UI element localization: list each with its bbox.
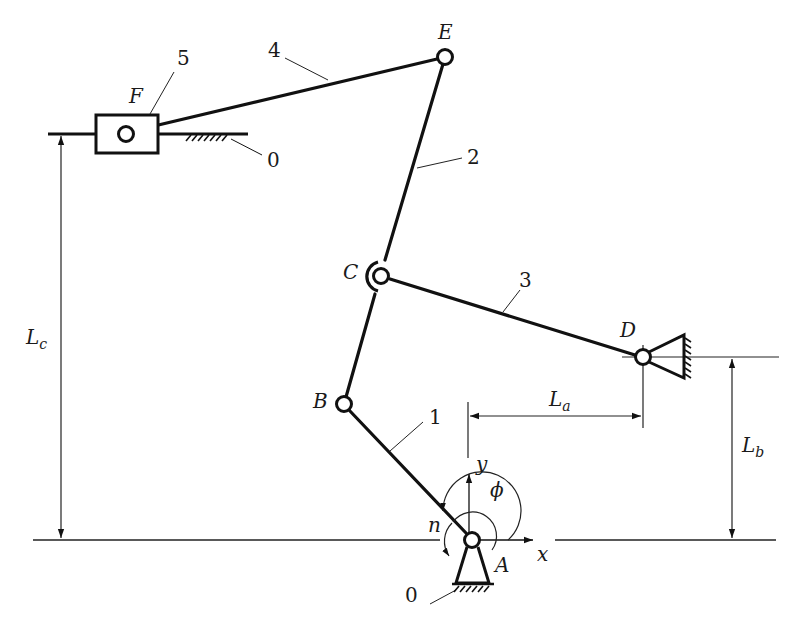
joint-D [636,350,651,365]
leader-0-top [231,139,262,155]
label-Lc: Lc [26,327,47,347]
joint-E [438,50,453,65]
ground-hatch-icon [186,135,227,141]
label-E: E [438,22,453,42]
ground-support-A [452,547,494,592]
label-x-axis: x [537,544,548,564]
label-C: C [343,262,358,282]
joint-F [119,127,134,142]
mechanism-diagram [0,0,807,633]
link-3 [390,279,635,355]
label-n: n [428,515,441,535]
label-link-2: 2 [467,147,480,167]
La-main: L [549,387,562,411]
pins [119,50,651,548]
label-A: A [495,555,509,575]
label-B: B [313,391,328,411]
label-link-4: 4 [268,40,281,60]
label-ground-0-bottom: 0 [405,585,418,605]
label-y-axis: y [476,454,487,474]
rotation-n-arrow [444,523,452,556]
label-phi: ϕ [490,480,504,500]
link-1 [349,410,466,533]
Lc-sub: c [39,336,47,352]
label-link-5: 5 [177,48,190,68]
phi-angle-arc [443,472,521,540]
label-F: F [129,86,143,106]
label-ground-0-top: 0 [267,150,280,170]
La-sub: a [562,398,570,414]
joint-B [337,397,352,412]
links [133,59,635,533]
label-link-3: 3 [519,270,532,290]
label-link-1: 1 [429,407,442,427]
Lb-main: L [742,433,755,457]
label-La: La [549,389,571,409]
joint-A [465,533,480,548]
label-Lb: Lb [742,435,764,455]
link-2-upper [385,64,443,260]
label-D: D [620,320,636,340]
Lb-sub: b [755,444,764,460]
Lc-main: L [26,325,39,349]
link-2-lower [346,294,375,397]
joint-C [367,262,389,291]
